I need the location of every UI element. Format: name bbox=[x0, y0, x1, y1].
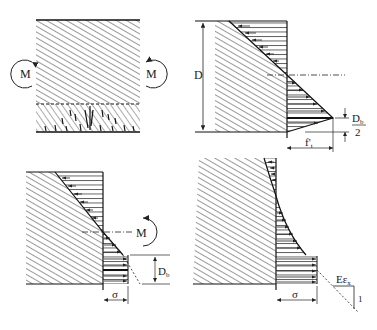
db-label: Db bbox=[158, 265, 170, 279]
sigma-label: σ bbox=[292, 288, 298, 300]
panel-stress-block: M Db σ bbox=[26, 172, 170, 304]
depth-label: D bbox=[194, 68, 203, 82]
tension-block bbox=[287, 75, 333, 132]
modulus-strain-label: Eεx bbox=[336, 273, 351, 287]
uncracked-zone bbox=[36, 20, 140, 104]
panel-nonlinear-stress: Eεx 1 σ bbox=[193, 158, 363, 312]
panel-cracked-beam: M M bbox=[11, 20, 167, 132]
db-half-numerator: Db bbox=[352, 112, 364, 126]
figure-canvas: M M D bbox=[0, 0, 377, 330]
db-half-denominator: 2 bbox=[355, 126, 361, 138]
moment-label: M bbox=[136, 226, 147, 240]
section-hatch bbox=[193, 158, 276, 284]
moment-right-label: M bbox=[146, 67, 157, 81]
tensile-strength-label: f't bbox=[305, 136, 313, 150]
panel-linear-stress: D Db 2 f't bbox=[194, 21, 366, 152]
slope-unit-label: 1 bbox=[358, 294, 363, 304]
sigma-label: σ bbox=[112, 288, 118, 300]
moment-left-label: M bbox=[20, 67, 31, 81]
